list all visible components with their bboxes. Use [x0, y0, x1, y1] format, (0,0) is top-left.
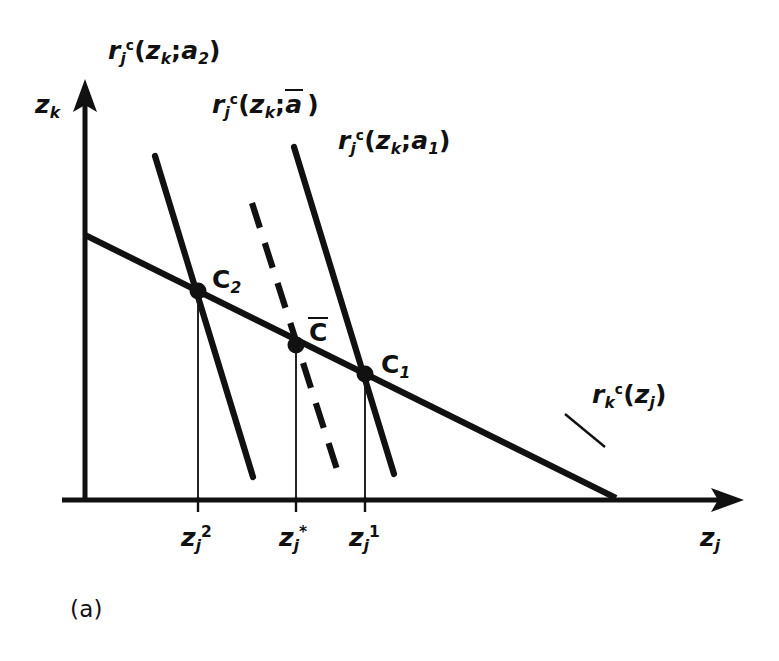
point-label-Cbar: C — [309, 320, 328, 345]
x-axis-label-sub: j — [715, 537, 720, 555]
leader-line-rk-c-zj — [565, 414, 605, 447]
y-axis — [73, 79, 97, 500]
point-Cbar — [288, 337, 305, 354]
point-C1 — [357, 366, 374, 383]
figure-container: zk zj rjc(zk;a2) rjc(zk;a) rjc(zk;a1) rk… — [0, 0, 779, 661]
point-label-C2: C2 — [212, 267, 241, 296]
x-axis — [62, 488, 744, 512]
curve-label-rk-c-zj: rkc(zj) — [592, 382, 667, 411]
point-label-C1: C1 — [381, 352, 410, 381]
curve-label-rj-c-zk-a1: rjc(zk;a1) — [338, 128, 451, 157]
abar-overline: a — [285, 92, 302, 117]
tick-label-zjstar: zj* — [279, 525, 307, 554]
point-C2 — [190, 283, 207, 300]
tick-label-zj1: zj1 — [349, 525, 380, 554]
curve-rk-c-zj — [85, 235, 616, 498]
x-axis-label-var: z — [700, 523, 715, 552]
figure-caption: (a) — [70, 598, 103, 621]
figure-canvas — [0, 0, 779, 661]
x-axis-label: zj — [700, 525, 720, 554]
curve-label-rj-c-zk-a2: rjc(zk;a2) — [108, 38, 221, 67]
y-axis-label-sub: k — [50, 104, 60, 122]
tick-label-zj2: zj2 — [181, 525, 212, 554]
curve-rj-c-zk-a1 — [294, 147, 394, 474]
y-axis-label: zk — [35, 92, 60, 121]
curve-rj-c-zk-a2 — [155, 156, 253, 477]
curve-label-rj-c-zk-abar: rjc(zk;a) — [212, 92, 319, 121]
y-axis-label-var: z — [35, 90, 50, 119]
